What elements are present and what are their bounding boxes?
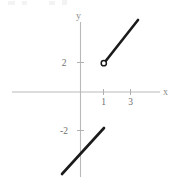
graph-canvas: y x 2 -2 1 3 — [0, 0, 176, 177]
y-tick-label-2: 2 — [62, 58, 67, 68]
x-tick-label-1: 1 — [101, 97, 106, 107]
page-bleed-smudges — [8, 0, 67, 5]
upper-branch-segment — [105, 20, 139, 63]
y-tick-label-neg2: -2 — [60, 126, 68, 136]
y-axis-label: y — [76, 10, 81, 21]
lower-branch-segment — [62, 128, 104, 174]
coordinate-graph-figure: y x 2 -2 1 3 — [0, 0, 176, 177]
x-axis-label: x — [163, 86, 168, 97]
open-circle-endpoint-icon — [101, 61, 106, 66]
x-tick-label-3: 3 — [128, 97, 133, 107]
